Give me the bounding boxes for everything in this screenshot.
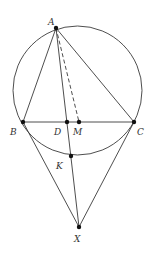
point-X — [77, 225, 81, 229]
segment-BX — [23, 122, 79, 227]
label-M: M — [72, 127, 83, 137]
segment-CX — [79, 122, 134, 227]
point-D — [65, 120, 69, 124]
segment-AB — [23, 28, 56, 122]
point-C — [132, 120, 136, 124]
geometry-diagram: A B C D M K X — [0, 0, 153, 254]
point-B — [21, 120, 25, 124]
label-K: K — [55, 161, 64, 171]
label-A: A — [47, 17, 55, 27]
label-D: D — [53, 127, 61, 137]
point-K — [69, 154, 73, 158]
label-C: C — [137, 127, 144, 137]
point-M — [77, 120, 81, 124]
label-X: X — [73, 234, 81, 244]
label-B: B — [9, 127, 17, 137]
